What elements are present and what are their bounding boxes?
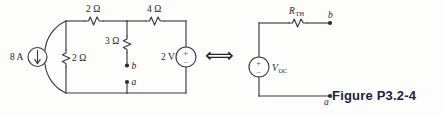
left-arc-bottom [45,64,66,93]
terminal-b-label-left: b [132,61,137,71]
right-circuit-group [249,19,332,98]
resistor-rth-subscript: TH [296,10,305,17]
voltage-source-voc-minus: − [257,68,262,77]
resistor-2ohm-top-label: 2 Ω [86,4,100,14]
voltage-source-voc-subscript: OC [278,67,287,74]
current-source-label: 8 A [10,52,24,62]
resistor-4ohm-label: 4 Ω [147,4,161,14]
voltage-source-2v-label: 2 V [161,52,175,62]
left-arc-top [45,21,66,50]
resistor-4ohm-symbol [146,17,164,25]
equivalence-arrow-icon: ⟺ [205,44,231,66]
resistor-3ohm-label: 3 Ω [105,36,119,46]
figure-canvas: 8 A 2 Ω 4 Ω 2 Ω 3 Ω 2 V + − b a R TH V O… [0,0,442,115]
resistor-3ohm-symbol [123,36,131,53]
terminal-a-label-left: a [132,77,137,87]
resistor-rth-symbol [289,19,307,27]
terminal-b-dot-left [125,63,129,67]
resistor-2ohm-top-symbol [85,17,103,25]
resistor-2ohm-shunt-label: 2 Ω [72,53,86,63]
terminal-b-dot-right [328,21,332,25]
terminal-a-label-right: a [324,97,329,107]
resistor-rth-label: R [288,6,295,16]
resistor-2ohm-shunt-symbol [62,50,70,67]
voltage-source-2v-minus: − [184,58,189,67]
figure-caption: Figure P3.2-4 [332,88,416,103]
terminal-b-label-right: b [328,10,333,20]
